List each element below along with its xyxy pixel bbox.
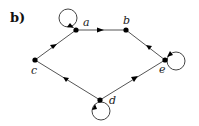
node-label-a: a	[83, 16, 90, 29]
node-b	[123, 27, 128, 32]
node-a	[73, 27, 78, 32]
node-label-d: d	[109, 94, 116, 107]
arrow-icon	[97, 28, 104, 33]
self-loop-a	[59, 9, 77, 27]
edge-e-b	[126, 30, 165, 60]
node-d	[97, 97, 102, 102]
node-e	[162, 57, 167, 62]
node-c	[32, 57, 37, 62]
panel-label: b)	[10, 10, 25, 25]
node-label-e: e	[159, 63, 166, 76]
arrow-icon	[63, 77, 69, 82]
node-label-c: c	[31, 64, 37, 77]
node-label-b: b	[123, 14, 130, 27]
arrow-icon	[167, 51, 173, 57]
directed-graph: b) a b c d e	[0, 0, 199, 126]
arrow-icon	[131, 76, 138, 82]
